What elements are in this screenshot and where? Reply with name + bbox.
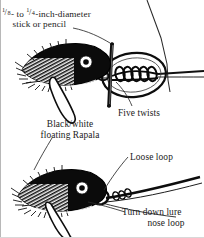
label-loose-loop: Loose loop bbox=[130, 152, 173, 163]
top-lure-eye bbox=[80, 56, 92, 68]
label-floating-rapala: Black/white floating Rapala bbox=[22, 119, 118, 140]
label-stick-or-pencil: 1 / 8 - to 1 / 4 -inch-diameter stick or… bbox=[2, 8, 91, 30]
fraction-one-eighth: 1 / 8 bbox=[2, 8, 11, 17]
label-stick-mid: - to bbox=[11, 9, 26, 19]
label-stick-line2: stick or pencil bbox=[2, 19, 91, 29]
label-turn-down-nose-loop: Turn down lure nose loop bbox=[122, 207, 204, 228]
label-turn-line1: Turn down lure bbox=[122, 207, 181, 217]
knot-diagram-figure: 1 / 8 - to 1 / 4 -inch-diameter stick or… bbox=[0, 0, 204, 238]
fraction-one-quarter: 1 / 4 bbox=[26, 8, 35, 17]
page-edge-bottom bbox=[0, 237, 204, 238]
label-five-twists: Five twists bbox=[118, 108, 160, 119]
label-rapala-line1: Black/white bbox=[47, 119, 93, 129]
label-turn-line2: nose loop bbox=[122, 218, 204, 229]
label-stick-suffix: -inch-diameter bbox=[35, 9, 90, 19]
label-rapala-line2: floating Rapala bbox=[40, 130, 99, 140]
bottom-lure-eye bbox=[76, 182, 88, 194]
page-edge-left bbox=[0, 0, 1, 238]
